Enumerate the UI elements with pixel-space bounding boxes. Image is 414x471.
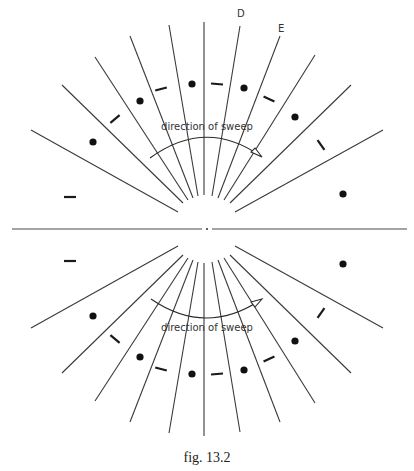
lower-fan — [31, 246, 383, 436]
lower-dot-marker — [240, 366, 247, 373]
upper-ray-4 — [130, 36, 193, 198]
lower-ray-4 — [130, 260, 193, 422]
lower-dot-marker — [188, 370, 195, 377]
figure-caption: fig. 13.2 — [183, 450, 230, 465]
upper-ray-8 — [218, 36, 280, 198]
upper-dot-marker — [339, 190, 346, 197]
upper-sweep-arrowhead-icon — [251, 148, 262, 157]
ray-label-e: E — [278, 23, 284, 34]
lower-dash-marker — [264, 356, 275, 361]
lower-sweep-arc — [151, 299, 259, 318]
upper-dash-marker — [155, 87, 167, 90]
upper-dot-marker — [89, 138, 96, 145]
upper-ray-10 — [230, 85, 351, 203]
upper-dash-marker — [211, 83, 223, 84]
upper-fan — [31, 22, 383, 212]
axis-center-mark — [206, 228, 208, 230]
upper-sweep-label: direction of sweep — [161, 121, 253, 132]
lower-dash-marker — [211, 373, 223, 374]
upper-ray-5 — [169, 25, 198, 196]
upper-dot-marker — [136, 97, 143, 104]
lower-dot-marker — [339, 260, 346, 267]
lower-ray-7 — [212, 262, 240, 432]
lower-dot-marker — [89, 312, 96, 319]
upper-dash-marker — [318, 140, 325, 150]
lower-sweep-arrowhead-icon — [251, 299, 262, 307]
lower-ray-8 — [218, 260, 280, 422]
upper-dot-marker — [188, 80, 195, 87]
lower-dash-marker — [110, 335, 119, 343]
upper-ray-2 — [62, 85, 183, 203]
upper-ray-1 — [31, 130, 178, 212]
upper-ray-7 — [212, 26, 240, 196]
lower-dot-marker — [136, 353, 143, 360]
lower-ray-2 — [62, 255, 183, 373]
lower-ray-5 — [169, 262, 198, 433]
sweep-diagram: D E direction of sweep direction of swee… — [0, 0, 414, 471]
ray-label-d: D — [237, 8, 245, 19]
upper-dot-marker — [240, 84, 247, 91]
upper-ray-11 — [235, 130, 383, 212]
lower-ray-1 — [31, 246, 178, 328]
lower-ray-10 — [230, 255, 351, 373]
lower-dot-marker — [291, 337, 298, 344]
lower-ray-11 — [235, 246, 383, 328]
lower-dash-marker — [318, 308, 325, 318]
upper-dash-marker — [264, 96, 275, 101]
lower-sweep-label: direction of sweep — [161, 322, 253, 333]
upper-dot-marker — [291, 113, 298, 120]
lower-dash-marker — [155, 367, 167, 370]
upper-dash-marker — [110, 115, 119, 123]
